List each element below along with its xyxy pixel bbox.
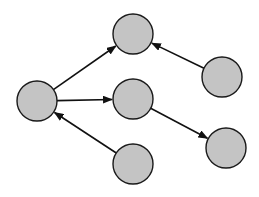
- node-right-bottom: [206, 128, 246, 168]
- node-left: [17, 81, 57, 121]
- edge-left-to-top: [53, 46, 115, 90]
- node-top: [113, 14, 153, 54]
- nodes: [17, 14, 246, 184]
- edge-right-top-to-top: [152, 43, 204, 68]
- edge-left-to-middle: [57, 99, 112, 100]
- node-right-top: [202, 57, 242, 97]
- edge-bottom-to-left: [55, 113, 117, 154]
- graph-diagram: [0, 0, 259, 197]
- edge-middle-to-right-bottom: [151, 108, 208, 138]
- graph-canvas: [0, 0, 259, 197]
- node-bottom: [113, 144, 153, 184]
- node-middle: [113, 79, 153, 119]
